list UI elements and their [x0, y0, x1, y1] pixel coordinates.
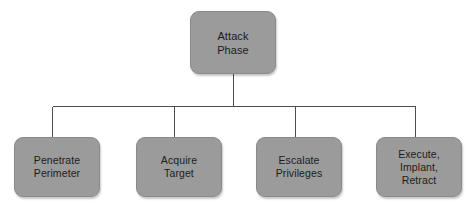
node-penetrate-perimeter[interactable]: Penetrate Perimeter: [14, 137, 100, 197]
node-label-escalate-privileges: Escalate Privileges: [276, 154, 323, 180]
node-label-attack-phase: Attack Phase: [217, 29, 249, 57]
connector-lines: [53, 74, 416, 137]
node-attack-phase[interactable]: Attack Phase: [190, 11, 276, 74]
node-label-execute-implant-retract: Execute, Implant, Retract: [398, 148, 440, 187]
node-label-penetrate-perimeter: Penetrate Perimeter: [34, 154, 80, 180]
node-acquire-target[interactable]: Acquire Target: [136, 137, 222, 197]
node-label-acquire-target: Acquire Target: [161, 154, 197, 180]
attack-phase-diagram: Attack Phase Penetrate Perimeter Acquire…: [0, 0, 472, 209]
node-execute-implant-retract[interactable]: Execute, Implant, Retract: [376, 137, 462, 197]
node-escalate-privileges[interactable]: Escalate Privileges: [256, 137, 342, 197]
